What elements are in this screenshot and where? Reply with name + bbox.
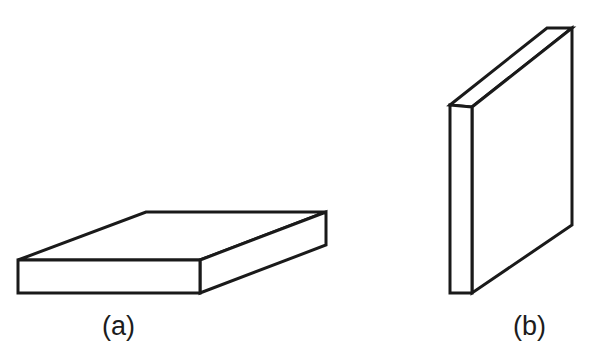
slab-vertical-group — [450, 28, 572, 293]
figure-container: (a) (b) — [0, 0, 597, 356]
caption-b: (b) — [513, 313, 546, 340]
slab-horizontal-group — [18, 212, 326, 293]
slab-horizontal-front-face — [18, 260, 200, 293]
caption-a: (a) — [102, 313, 135, 340]
slab-vertical-front-face — [472, 28, 572, 293]
slab-diagram-svg — [0, 0, 597, 356]
slab-vertical-left-face — [450, 105, 472, 293]
